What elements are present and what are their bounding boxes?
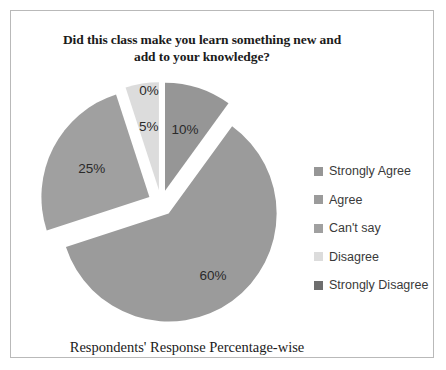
- pie-slice-label: 5%: [139, 119, 159, 134]
- chart-title-line-2: add to your knowledge?: [134, 49, 270, 64]
- legend-swatch-icon: [314, 224, 323, 233]
- legend-item-label: Can't say: [329, 221, 381, 235]
- legend-swatch-icon: [314, 167, 323, 176]
- pie-slice-label: 60%: [200, 268, 227, 283]
- legend-item[interactable]: Strongly Disagree: [314, 271, 444, 300]
- legend-item-label: Strongly Disagree: [329, 278, 428, 292]
- legend-item[interactable]: Can't say: [314, 214, 444, 243]
- pie-chart-svg: 10%60%25%5%0%: [25, 73, 309, 333]
- pie-slice-group: [41, 82, 276, 321]
- legend-item[interactable]: Strongly Agree: [314, 157, 444, 186]
- legend-swatch-icon: [314, 195, 323, 204]
- chart-frame: Did this class make you learn something …: [10, 10, 434, 358]
- pie-slice-label-zero: 0%: [139, 83, 159, 98]
- chart-caption: Respondents' Response Percentage-wise: [37, 339, 337, 356]
- legend-item[interactable]: Disagree: [314, 243, 444, 272]
- chart-legend: Strongly AgreeAgreeCan't sayDisagreeStro…: [314, 157, 444, 300]
- legend-swatch-icon: [314, 281, 323, 290]
- chart-title: Did this class make you learn something …: [37, 31, 367, 65]
- legend-item-label: Agree: [329, 193, 362, 207]
- legend-item[interactable]: Agree: [314, 186, 444, 215]
- legend-swatch-icon: [314, 252, 323, 261]
- pie-slice-label: 10%: [172, 122, 199, 137]
- pie-chart: 10%60%25%5%0%: [25, 73, 309, 333]
- legend-item-label: Strongly Agree: [329, 164, 411, 178]
- chart-screenshot: Did this class make you learn something …: [0, 0, 446, 370]
- chart-title-line-1: Did this class make you learn something …: [63, 32, 341, 47]
- pie-slice-label: 25%: [78, 161, 105, 176]
- legend-item-label: Disagree: [329, 250, 379, 264]
